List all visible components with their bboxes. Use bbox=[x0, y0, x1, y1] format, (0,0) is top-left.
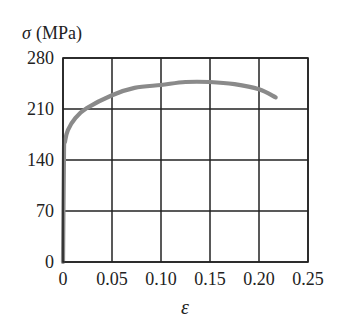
y-tick-label: 0 bbox=[45, 252, 54, 272]
x-tick-label: 0.05 bbox=[96, 269, 128, 289]
x-tick-label: 0.10 bbox=[145, 269, 177, 289]
y-tick-label: 280 bbox=[27, 48, 54, 68]
x-axis-label: ε bbox=[181, 296, 189, 318]
y-axis-label: σ(MPa) bbox=[22, 23, 82, 44]
grid bbox=[63, 58, 308, 262]
y-tick-label: 210 bbox=[27, 99, 54, 119]
y-tick-label: 140 bbox=[27, 150, 54, 170]
chart-canvas: 070140210280 00.050.100.150.200.25 σ(MPa… bbox=[0, 0, 343, 335]
y-tick-label: 70 bbox=[36, 201, 54, 221]
x-tick-label: 0.15 bbox=[194, 269, 226, 289]
stress-strain-chart: 070140210280 00.050.100.150.200.25 σ(MPa… bbox=[0, 0, 343, 335]
y-axis-unit: (MPa) bbox=[36, 23, 82, 44]
x-tick-label: 0.20 bbox=[243, 269, 275, 289]
x-axis-ticks: 00.050.100.150.200.25 bbox=[59, 269, 324, 289]
sigma-symbol: σ bbox=[22, 23, 32, 43]
x-tick-label: 0 bbox=[59, 269, 68, 289]
x-tick-label: 0.25 bbox=[292, 269, 324, 289]
y-axis-ticks: 070140210280 bbox=[27, 48, 54, 272]
